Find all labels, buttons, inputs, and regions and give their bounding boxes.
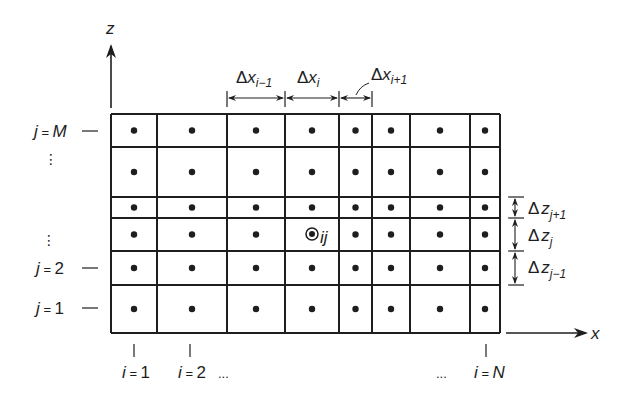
- grid-node-dot-icon: [352, 265, 358, 271]
- grid-node-dot-icon: [388, 204, 394, 210]
- row-label-j-2: j = 2: [34, 259, 98, 278]
- dz-label-j: Δzj: [528, 226, 553, 249]
- grid-node-dot-icon: [482, 265, 488, 271]
- dx-leader-line: [356, 83, 369, 95]
- grid-node-dot-icon: [253, 231, 259, 237]
- column-label-i-N: i = N: [474, 363, 506, 382]
- grid-node-dot-icon: [482, 231, 488, 237]
- grid-node-dot-icon: [309, 265, 315, 271]
- column-label-i-1: i = 1: [122, 363, 150, 382]
- dz-label-j-minus-1: Δzj−1: [528, 258, 566, 281]
- grid-node-dot-icon: [352, 231, 358, 237]
- grid-node-dot-icon: [388, 169, 394, 175]
- grid-node-dot-icon: [482, 127, 488, 133]
- grid-node-dot-icon: [352, 306, 358, 312]
- grid-node-dot-icon: [253, 127, 259, 133]
- node-label-ij: ij: [320, 228, 329, 247]
- grid-node-dot-icon: [131, 127, 137, 133]
- grid-node-dot-icon: [388, 306, 394, 312]
- row-label-j-M: j = M: [32, 122, 98, 141]
- grid-node-dot-icon: [482, 204, 488, 210]
- grid-node-dot-icon: [352, 127, 358, 133]
- svg-text:j = 2: j = 2: [34, 259, 64, 278]
- grid-node-dot-icon: [437, 204, 443, 210]
- x-axis: x: [506, 324, 600, 343]
- grid-node-dot-icon: [131, 169, 137, 175]
- grid-node-dot-icon: [253, 265, 259, 271]
- grid-node-dot-icon: [189, 306, 195, 312]
- grid-node-dot-icon: [437, 127, 443, 133]
- grid-node-dot-icon: [131, 231, 137, 237]
- row-labels: j = M ⋮ ⋮ j = 2 j = 1: [32, 122, 98, 318]
- grid-node-dot-icon: [388, 231, 394, 237]
- row-label-j-1: j = 1: [34, 299, 98, 318]
- z-axis-label: z: [105, 19, 115, 38]
- dx-label-i-minus-1: Δxi−1: [236, 68, 272, 90]
- grid-node-dot-icon: [189, 169, 195, 175]
- grid-node-dot-icon: [309, 204, 315, 210]
- grid-node-dot-icon: [253, 204, 259, 210]
- grid-node-dot-icon: [131, 204, 137, 210]
- dz-label-j-plus-1: Δzj+1: [528, 199, 566, 222]
- ellipsis-left: ...: [218, 366, 229, 381]
- grid-node-dot-icon: [482, 306, 488, 312]
- svg-text:j = M: j = M: [32, 122, 68, 141]
- vertical-ellipsis-upper: ⋮: [44, 151, 58, 167]
- grid-node-dot-icon: [253, 169, 259, 175]
- grid-node-dot-icon: [437, 306, 443, 312]
- grid-node-dot-icon: [437, 169, 443, 175]
- dx-label-i: Δxi: [297, 68, 320, 90]
- vertical-ellipsis-lower: ⋮: [42, 232, 56, 248]
- grid-node-dot-icon: [388, 265, 394, 271]
- dz-dimensions: [508, 197, 524, 285]
- node-dot-icon: [309, 231, 315, 237]
- grid-node-dot-icon: [189, 127, 195, 133]
- grid-node-dot-icon: [437, 265, 443, 271]
- grid-node-dot-icon: [482, 169, 488, 175]
- grid-node-dot-icon: [388, 127, 394, 133]
- grid-node-dot-icon: [189, 204, 195, 210]
- grid-node-dot-icon: [309, 127, 315, 133]
- grid-node-dot-icon: [189, 231, 195, 237]
- grid-node-dot-icon: [309, 169, 315, 175]
- highlighted-node-ij: ij: [306, 228, 329, 247]
- grid-diagram: ij z x j = M ⋮ ⋮ j = 2 j = 1 i = 1 i = 2…: [0, 0, 626, 402]
- grid-node-dot-icon: [309, 306, 315, 312]
- column-labels: i = 1 i = 2 ... ... i = N: [122, 344, 506, 382]
- grid-node-dot-icon: [253, 306, 259, 312]
- svg-text:j = 1: j = 1: [34, 299, 64, 318]
- column-label-i-2: i = 2: [178, 363, 206, 382]
- grid-node-dot-icon: [352, 204, 358, 210]
- grid-node-dot-icon: [131, 265, 137, 271]
- z-axis: z: [105, 19, 115, 108]
- grid-node-dot-icon: [352, 169, 358, 175]
- grid-node-dot-icon: [131, 306, 137, 312]
- dx-label-i-plus-1: Δxi+1: [371, 65, 407, 87]
- grid-node-dot-icon: [189, 265, 195, 271]
- grid-lines: [111, 114, 500, 333]
- grid-node-dot-icon: [437, 231, 443, 237]
- x-axis-label: x: [590, 324, 600, 343]
- ellipsis-right: ...: [436, 366, 447, 381]
